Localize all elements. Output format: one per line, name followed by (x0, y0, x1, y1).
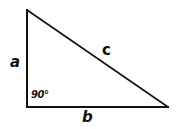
side-c-label: c (102, 43, 111, 58)
side-b-label: b (82, 110, 93, 125)
side-a-label: a (10, 55, 20, 70)
right-angle-label: 90° (31, 90, 48, 100)
